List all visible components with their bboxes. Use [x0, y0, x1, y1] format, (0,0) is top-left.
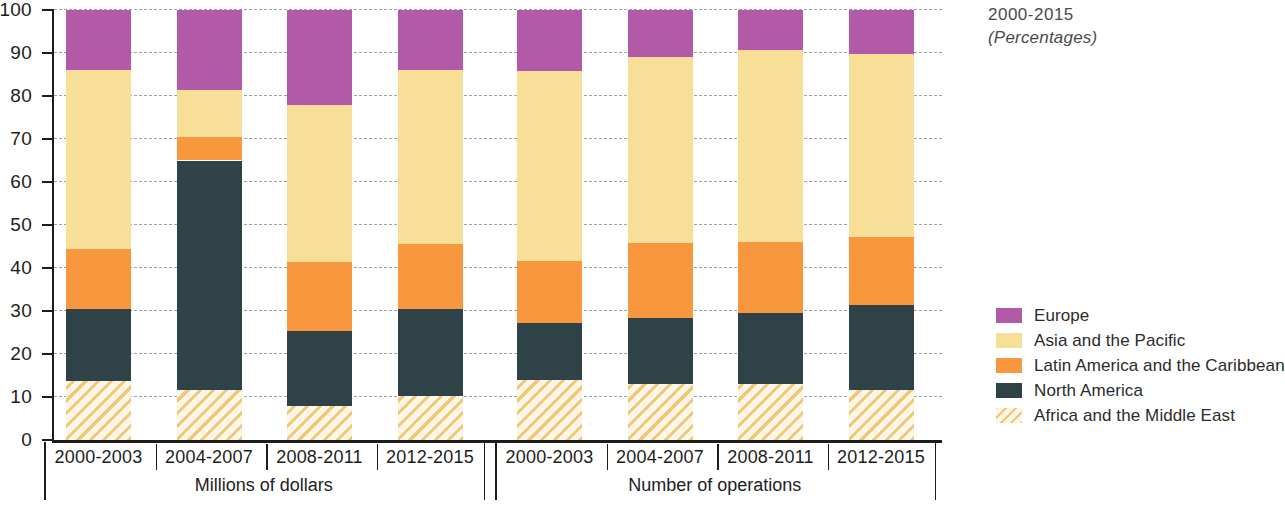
y-tick-label: 60	[0, 171, 32, 193]
y-tick-label: 100	[0, 0, 32, 21]
category-separator	[828, 444, 830, 470]
legend-label: Latin America and the Caribbean	[1034, 356, 1285, 376]
bar-segment[interactable]	[287, 406, 352, 440]
y-tick-label: 40	[0, 257, 32, 279]
legend-swatch	[996, 383, 1022, 398]
bar-segment[interactable]	[738, 10, 803, 50]
group-boundary-tick	[484, 442, 486, 500]
category-label: 2012-2015	[830, 442, 933, 472]
group-labels: Millions of dollarsNumber of operations	[52, 472, 942, 502]
legend-swatch	[996, 408, 1022, 423]
y-tick-label: 50	[0, 214, 32, 236]
bar-column[interactable]	[849, 10, 914, 440]
bar-segment[interactable]	[177, 390, 242, 440]
bar-segment[interactable]	[517, 323, 582, 380]
group-boundary-tick	[495, 442, 497, 500]
bar-segment[interactable]	[738, 50, 803, 242]
legend-swatch	[996, 358, 1022, 373]
legend-label: Europe	[1034, 306, 1089, 326]
bar-segment[interactable]	[628, 243, 693, 318]
bar-segment[interactable]	[287, 105, 352, 263]
chart-legend: EuropeAsia and the PacificLatin America …	[996, 303, 1277, 428]
bar-segment[interactable]	[849, 54, 914, 236]
bar-segment[interactable]	[66, 309, 131, 381]
bar-column[interactable]	[398, 10, 463, 440]
bar-segment[interactable]	[517, 71, 582, 260]
bar-segment[interactable]	[398, 10, 463, 70]
bar-segment[interactable]	[738, 313, 803, 384]
group-label: Number of operations	[495, 472, 935, 498]
bar-segment[interactable]	[287, 331, 352, 405]
legend-label: Africa and the Middle East	[1034, 406, 1235, 426]
category-label: 2000-2003	[498, 442, 601, 472]
bar-segment[interactable]	[398, 309, 463, 396]
y-tick-label: 10	[0, 386, 32, 408]
category-separator	[377, 444, 379, 470]
bar-segment[interactable]	[287, 10, 352, 105]
bar-column[interactable]	[177, 10, 242, 440]
bar-segment[interactable]	[398, 244, 463, 309]
category-label: 2008-2011	[268, 442, 371, 472]
category-label: 2012-2015	[379, 442, 482, 472]
bar-segment[interactable]	[66, 381, 131, 440]
category-label: 2004-2007	[158, 442, 261, 472]
bar-segment[interactable]	[628, 57, 693, 243]
legend-label: Asia and the Pacific	[1034, 331, 1185, 351]
category-label: 2004-2007	[609, 442, 712, 472]
bar-segment[interactable]	[849, 390, 914, 440]
bar-segment[interactable]	[738, 242, 803, 313]
group-label: Millions of dollars	[44, 472, 484, 498]
bar-segment[interactable]	[177, 10, 242, 90]
bar-segment[interactable]	[398, 396, 463, 440]
bar-segment[interactable]	[66, 249, 131, 309]
y-tick-label: 30	[0, 300, 32, 322]
bar-segment[interactable]	[628, 384, 693, 440]
bar-segment[interactable]	[177, 137, 242, 161]
bars-layer	[52, 10, 942, 440]
bar-segment[interactable]	[628, 10, 693, 57]
bar-segment[interactable]	[517, 261, 582, 323]
bar-segment[interactable]	[849, 305, 914, 389]
chart-title-block: 2000-2015 (Percentages)	[988, 4, 1273, 50]
group-boundary-tick	[935, 442, 937, 500]
legend-item[interactable]: Europe	[996, 303, 1277, 328]
y-tick-label: 80	[0, 85, 32, 107]
legend-item[interactable]: Africa and the Middle East	[996, 403, 1277, 428]
bar-column[interactable]	[738, 10, 803, 440]
bar-segment[interactable]	[628, 318, 693, 384]
category-separator	[266, 444, 268, 470]
bar-segment[interactable]	[517, 380, 582, 440]
category-separator	[607, 444, 609, 470]
bar-segment[interactable]	[66, 10, 131, 70]
legend-item[interactable]: Latin America and the Caribbean	[996, 353, 1277, 378]
legend-swatch	[996, 308, 1022, 323]
plot-area: 1009080706050403020100	[52, 10, 942, 440]
group-boundary-tick	[44, 442, 46, 500]
legend-swatch	[996, 333, 1022, 348]
category-separator	[156, 444, 158, 470]
y-tick-label: 90	[0, 42, 32, 64]
bar-segment[interactable]	[849, 10, 914, 54]
category-label: 2000-2003	[47, 442, 150, 472]
bar-segment[interactable]	[177, 161, 242, 390]
legend-item[interactable]: Asia and the Pacific	[996, 328, 1277, 353]
bar-segment[interactable]	[177, 90, 242, 137]
chart-title: 2000-2015	[988, 4, 1273, 27]
y-tick-label: 0	[0, 429, 32, 451]
y-tick-label: 70	[0, 128, 32, 150]
chart-subtitle: (Percentages)	[988, 27, 1273, 50]
bar-column[interactable]	[628, 10, 693, 440]
y-tick-label: 20	[0, 343, 32, 365]
bar-segment[interactable]	[738, 384, 803, 440]
bar-segment[interactable]	[517, 10, 582, 71]
legend-item[interactable]: North America	[996, 378, 1277, 403]
bar-column[interactable]	[517, 10, 582, 440]
bar-segment[interactable]	[849, 237, 914, 306]
bar-column[interactable]	[287, 10, 352, 440]
category-label: 2008-2011	[719, 442, 822, 472]
bar-segment[interactable]	[66, 70, 131, 248]
bar-segment[interactable]	[287, 262, 352, 331]
bar-segment[interactable]	[398, 70, 463, 244]
bar-column[interactable]	[66, 10, 131, 440]
